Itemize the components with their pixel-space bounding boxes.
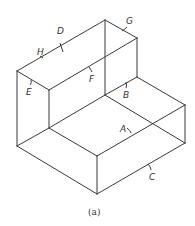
label-G: G <box>126 16 133 26</box>
leader-A <box>127 128 131 133</box>
label-F: F <box>89 74 95 84</box>
isometric-drawing: D H G E F B A C (a) <box>0 0 195 226</box>
label-E: E <box>26 87 32 97</box>
leader-F <box>89 67 92 72</box>
lower-block-edges <box>17 77 185 194</box>
label-B: B <box>123 90 129 100</box>
leader-C <box>148 164 151 170</box>
label-A: A <box>119 124 126 134</box>
label-H: H <box>37 47 44 57</box>
label-C: C <box>149 172 156 182</box>
leader-B <box>126 82 127 88</box>
label-D: D <box>57 26 64 36</box>
leader-lines <box>30 27 151 170</box>
leader-E <box>30 80 31 85</box>
figure-caption: (a) <box>88 207 100 217</box>
upper-block-edges <box>17 20 137 146</box>
